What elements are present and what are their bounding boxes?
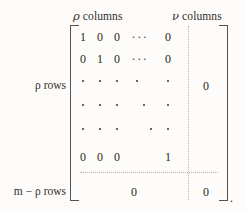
matrix-cell: 0 (76, 150, 90, 165)
ellipsis-dot (116, 80, 118, 82)
ellipsis-dot (116, 128, 118, 130)
zero-block-bottom-right: 0 (198, 185, 214, 200)
ellipsis-dot (82, 104, 84, 106)
ellipsis-dot (82, 128, 84, 130)
row-ellipsis: ··· (129, 30, 151, 45)
matrix-cell: 1 (76, 30, 90, 45)
zero-block-bottom-left: 0 (126, 185, 142, 200)
zero-block-upper-right: 0 (198, 79, 214, 94)
ellipsis-dot (99, 128, 101, 130)
ellipsis-dot (99, 104, 101, 106)
matrix-figure: ρ columns ν columns ρ rows m − ρ rows 1 … (0, 0, 246, 213)
label-m-minus-rho-rows: m − ρ rows (2, 185, 66, 197)
ellipsis-dot (167, 104, 169, 106)
matrix-cell: 0 (110, 30, 124, 45)
ellipsis-dot (82, 80, 84, 82)
matrix-cell: 0 (161, 52, 175, 67)
ellipsis-dot (136, 80, 138, 82)
matrix-cell: 0 (110, 52, 124, 67)
ellipsis-dot (143, 104, 145, 106)
nu-symbol: ν (172, 9, 179, 23)
matrix-cell: 0 (93, 30, 107, 45)
partition-line-vertical (188, 26, 189, 200)
partition-line-horizontal (80, 172, 218, 173)
header-rho-columns: ρ columns (73, 9, 123, 23)
columns-word-left: columns (83, 10, 123, 22)
matrix-cell: 1 (161, 150, 175, 165)
columns-word-right: columns (182, 10, 222, 22)
header-nu-columns: ν columns (172, 9, 222, 23)
rho-symbol: ρ (73, 9, 80, 23)
matrix-cell: 1 (93, 52, 107, 67)
ellipsis-dot (167, 80, 169, 82)
label-rho-rows: ρ rows (18, 79, 66, 91)
matrix-cell: 0 (76, 52, 90, 67)
ellipsis-dot (150, 128, 152, 130)
matrix-cell: 0 (161, 30, 175, 45)
ellipsis-dot (116, 104, 118, 106)
matrix-bracket-right (219, 25, 228, 201)
row-ellipsis: ··· (129, 52, 151, 67)
trailing-period: . (230, 191, 233, 206)
ellipsis-dot (99, 80, 101, 82)
ellipsis-dot (167, 128, 169, 130)
matrix-cell: 0 (93, 150, 107, 165)
matrix-cell: 0 (110, 150, 124, 165)
